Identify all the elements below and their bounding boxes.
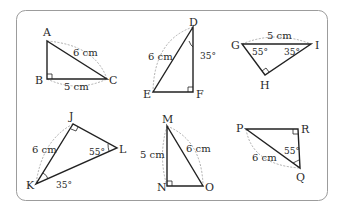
vertex-label-h: H: [260, 79, 270, 92]
vertex-label-r: R: [301, 123, 310, 136]
vertex-label-a: A: [42, 26, 52, 39]
vertex-label-c: C: [109, 74, 117, 87]
angle-mark-l: [108, 144, 109, 151]
angle-label-l: 55°: [89, 147, 105, 157]
vertex-label-j: J: [68, 110, 73, 123]
angle-label-g: 55°: [252, 47, 268, 57]
side-label-mn: 5 cm: [140, 149, 165, 160]
triangles-figure: A B C 6 cm 5 cm D E F 6 cm 35° G I H 5 c…: [0, 0, 342, 216]
vertex-label-p: P: [236, 122, 244, 135]
vertex-label-i: I: [315, 39, 319, 52]
angle-label-i: 35°: [284, 47, 300, 57]
vertex-label-e: E: [143, 88, 151, 101]
side-label-ac: 6 cm: [73, 47, 98, 58]
angle-label-k: 35°: [56, 180, 72, 190]
vertex-label-f: F: [196, 88, 204, 101]
angle-mark-k: [43, 173, 48, 179]
right-angle-mark-b: [47, 74, 52, 79]
angle-label-q: 55°: [284, 146, 300, 156]
vertex-label-m: M: [162, 113, 173, 126]
angle-mark-q: [293, 160, 299, 163]
vertex-label-k: K: [26, 179, 35, 192]
triangle-jkl: J K L 6 cm 55° 35°: [26, 110, 127, 192]
vertex-label-o: O: [205, 181, 214, 194]
vertex-label-q: Q: [296, 171, 305, 184]
vertex-label-l: L: [119, 143, 127, 156]
right-angle-mark-f: [188, 87, 193, 92]
vertex-label-d: D: [189, 16, 198, 29]
side-label-bc: 5 cm: [64, 81, 89, 92]
triangle-ghi: G I H 5 cm 55° 35°: [231, 30, 319, 92]
vertex-label-g: G: [231, 39, 240, 52]
side-label-gi: 5 cm: [267, 30, 292, 41]
side-label-pq: 6 cm: [252, 152, 277, 163]
right-angle-mark-r: [293, 129, 298, 134]
vertex-label-n: N: [157, 181, 167, 194]
triangle-abc: A B C 6 cm 5 cm: [35, 26, 117, 92]
right-angle-mark-n: [167, 181, 172, 186]
side-label-jk: 6 cm: [32, 144, 57, 155]
side-label-de: 6 cm: [148, 51, 173, 62]
triangle-mno-sides: [167, 126, 203, 186]
triangle-pqr: P R Q 6 cm 55°: [236, 122, 310, 184]
side-label-mo: 6 cm: [186, 143, 211, 154]
triangle-mno: M N O 5 cm 6 cm: [140, 113, 214, 194]
vertex-label-b: B: [35, 74, 43, 87]
triangle-def: D E F 6 cm 35°: [143, 16, 216, 101]
right-angle-mark-j: [71, 127, 78, 131]
angle-label-d: 35°: [200, 51, 216, 61]
